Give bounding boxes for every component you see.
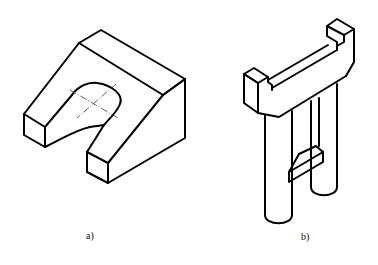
- figure-a-drawing: [24, 30, 185, 183]
- drawing-canvas: [0, 0, 378, 265]
- figure-b-label: b): [301, 231, 309, 242]
- figure-a-label: a): [86, 230, 94, 241]
- figure-b-drawing: [244, 19, 354, 223]
